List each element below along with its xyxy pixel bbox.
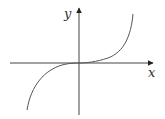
x-axis-label: x — [148, 65, 156, 80]
cubic-curve — [27, 14, 133, 110]
y-axis-label: y — [63, 6, 72, 21]
cubic-graph: y x — [0, 0, 165, 119]
